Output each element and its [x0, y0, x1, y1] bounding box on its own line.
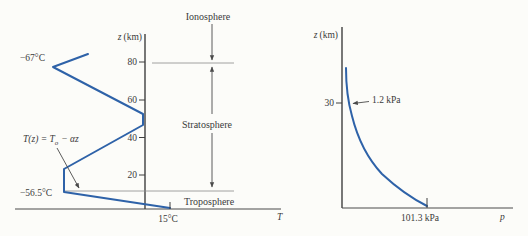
temperature-chart: 80 60 40 20 z(km) T Ionosphere Stratosph… — [15, 11, 283, 224]
upper-pressure-leader-arrow — [353, 102, 369, 104]
figure-canvas: 80 60 40 20 z(km) T Ionosphere Stratosph… — [0, 0, 528, 236]
tick-label-30: 30 — [325, 98, 335, 108]
lapse-rate-formula: T(z) = To− αz — [23, 134, 79, 147]
tick-label-20: 20 — [128, 170, 138, 180]
stratosphere-label: Stratosphere — [182, 119, 233, 130]
tick-label-40: 40 — [128, 133, 138, 143]
mesopause-temp-label: −67°C — [20, 53, 45, 63]
sea-level-pressure-label: 101.3 kPa — [401, 213, 440, 223]
pressure-profile-curve — [346, 68, 427, 206]
ionosphere-label: Ionosphere — [186, 11, 231, 22]
troposphere-label: Troposphere — [184, 196, 235, 207]
standard-atmosphere-figure: 80 60 40 20 z(km) T Ionosphere Stratosph… — [0, 0, 528, 236]
z-axis-title-left: z(km) — [117, 32, 142, 43]
upper-pressure-label: 1.2 kPa — [372, 95, 401, 105]
T-axis-title: T — [277, 212, 283, 222]
tick-label-60: 60 — [128, 95, 138, 105]
formula-leader-arrow — [57, 148, 79, 188]
p-axis-title: p — [499, 212, 505, 222]
tick-label-80: 80 — [128, 57, 138, 67]
z-axis-title-right: z(km) — [313, 30, 338, 41]
pressure-chart: 30 z(km) p 1.2 kPa 101.3 kPa — [313, 27, 513, 223]
sea-level-temp-label: 15°C — [158, 214, 178, 224]
tropopause-temp-label: −56.5°C — [20, 188, 52, 198]
temperature-profile-curve — [53, 54, 170, 208]
